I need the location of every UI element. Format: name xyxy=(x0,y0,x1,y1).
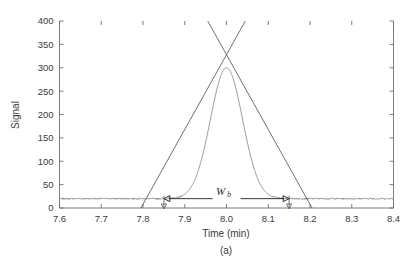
y-tick-label: 200 xyxy=(38,109,54,120)
x-tick-label: 7.8 xyxy=(136,213,149,224)
y-tick-label: 250 xyxy=(38,86,54,97)
y-tick-label: 50 xyxy=(43,179,54,190)
x-axis-title: Time (min) xyxy=(202,228,249,239)
x-tick-label: 7.7 xyxy=(95,213,108,224)
x-tick-label: 8.2 xyxy=(303,213,316,224)
figure-caption: (a) xyxy=(220,245,232,256)
y-tick-label: 400 xyxy=(38,15,54,26)
y-tick-label: 150 xyxy=(38,132,54,143)
y-axis-title: Signal xyxy=(10,101,21,129)
x-tick-label: 7.6 xyxy=(53,213,66,224)
y-tick-label: 350 xyxy=(38,39,54,50)
x-tick-label: 8.0 xyxy=(220,213,233,224)
peak-curve xyxy=(60,68,394,200)
peak-width-chart: Signal 050100150200250300350400 7.67.77.… xyxy=(0,0,410,267)
x-tick-label: 7.9 xyxy=(178,213,191,224)
y-tick-label: 0 xyxy=(48,202,53,213)
peak-width-at-base-label: W xyxy=(216,185,226,197)
x-tick-label: 8.4 xyxy=(387,213,400,224)
y-tick-label: 100 xyxy=(38,156,54,167)
left-inflection-tangent xyxy=(141,21,245,208)
plot-box-axis xyxy=(60,21,394,208)
axes-layer xyxy=(60,21,394,208)
chromatogram-figure: Signal 050100150200250300350400 7.67.77.… xyxy=(0,0,410,267)
y-tick-label: 300 xyxy=(38,62,54,73)
x-tick-label: 8.3 xyxy=(345,213,358,224)
series-layer xyxy=(60,21,394,208)
right-inflection-tangent xyxy=(208,21,312,208)
x-tick-label: 8.1 xyxy=(262,213,275,224)
peak-width-at-base-label-subscript: b xyxy=(227,190,231,199)
